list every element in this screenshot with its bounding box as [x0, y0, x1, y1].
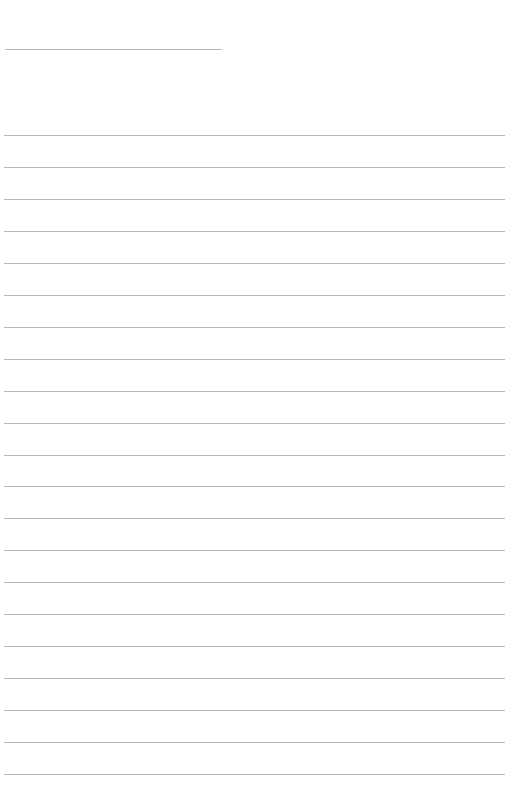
ruled-line: [4, 455, 505, 456]
ruled-line: [4, 582, 505, 583]
ruled-line: [4, 231, 505, 232]
ruled-line: [4, 742, 505, 743]
ruled-line: [4, 678, 505, 679]
ruled-line: [4, 263, 505, 264]
ruled-line: [4, 614, 505, 615]
ruled-line: [4, 359, 505, 360]
ruled-line: [4, 167, 505, 168]
ruled-line: [4, 391, 505, 392]
ruled-line: [4, 710, 505, 711]
ruled-line: [4, 327, 505, 328]
ruled-line: [4, 550, 505, 551]
ruled-line: [4, 423, 505, 424]
ruled-line: [4, 646, 505, 647]
ruled-line: [4, 295, 505, 296]
ruled-line: [4, 518, 505, 519]
ruled-line: [4, 135, 505, 136]
ruled-line: [4, 774, 505, 775]
ruled-line: [4, 199, 505, 200]
title-line: [5, 49, 222, 50]
ruled-line: [4, 486, 505, 487]
